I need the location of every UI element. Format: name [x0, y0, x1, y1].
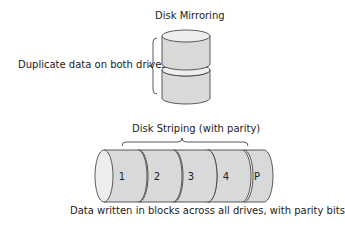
stripe-label-4: 4: [223, 171, 229, 182]
mirror-drive-top: [162, 30, 210, 70]
stripe-label-3: 3: [188, 171, 194, 182]
stripe-drive-1: 1: [95, 150, 147, 202]
stripe-label-2: 2: [154, 171, 160, 182]
stripe-label-p: P: [254, 171, 260, 182]
striping-caption: Data written in blocks across all drives…: [70, 205, 345, 216]
striping-title: Disk Striping (with parity): [132, 123, 260, 134]
mirroring-brace: [149, 38, 157, 94]
striping-brace: [122, 138, 248, 146]
stripe-label-1: 1: [119, 171, 125, 182]
